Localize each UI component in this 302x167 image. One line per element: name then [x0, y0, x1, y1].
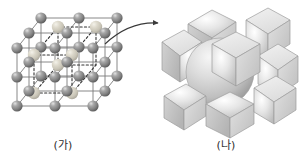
caption-unitcell: (나)	[150, 136, 302, 152]
caption-lattice: (가)	[0, 136, 138, 152]
panel-lattice: (가)	[0, 0, 150, 167]
crystal-structure-figure: (가)	[0, 0, 302, 167]
panel-unitcell: (나)	[150, 0, 302, 167]
